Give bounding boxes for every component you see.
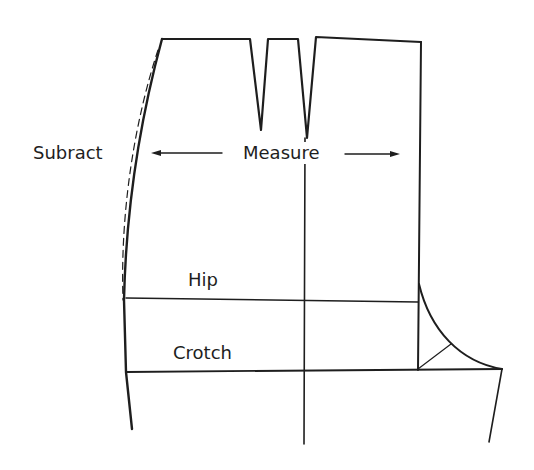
hip-label: Hip xyxy=(188,269,218,291)
right-edge-line xyxy=(418,42,421,370)
side-seam-curve xyxy=(124,39,162,429)
crotch-line xyxy=(126,369,502,372)
measure-label: Measure xyxy=(240,142,323,164)
waistline-with-darts xyxy=(162,37,421,138)
crotch-curve xyxy=(419,284,502,369)
pattern-diagram xyxy=(0,0,534,470)
inseam-line xyxy=(489,369,502,442)
hip-line xyxy=(126,298,418,302)
center-grainline xyxy=(304,138,305,444)
subtract-label: Subract xyxy=(33,142,103,164)
left-arrow-icon xyxy=(151,150,161,156)
crotch-bisector-line xyxy=(418,344,451,369)
original-side-seam-dashed xyxy=(123,50,158,300)
crotch-label: Crotch xyxy=(173,342,232,364)
right-arrow-icon xyxy=(390,151,400,157)
